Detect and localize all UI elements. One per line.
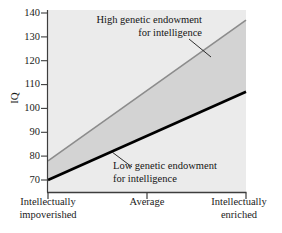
iq-genetic-endowment-chart: IQ 140 130 120 110 100 90 80 70 Intellec…: [0, 0, 282, 233]
high-annotation-line1: High genetic endowment: [55, 14, 202, 27]
low-annotation-line1: Low genetic endowment: [113, 160, 247, 173]
x-tick-0-line2: impoverished: [2, 209, 94, 222]
high-endowment-annotation: High genetic endowment for intelligence: [55, 14, 202, 39]
y-tick-140: 140: [14, 8, 40, 18]
low-endowment-annotation: Low genetic endowment for intelligence: [113, 160, 247, 185]
x-tick-intellectually-enriched: Intellectually enriched: [197, 196, 281, 221]
x-tick-0-line1: Intellectually: [2, 196, 94, 209]
y-tick-90: 90: [14, 127, 40, 137]
x-tick-2-line2: enriched: [197, 209, 281, 222]
y-tick-80: 80: [14, 151, 40, 161]
x-tick-1-line1: Average: [107, 196, 187, 209]
y-tick-70: 70: [14, 175, 40, 185]
y-tick-130: 130: [14, 32, 40, 42]
y-tick-110: 110: [14, 79, 40, 89]
x-axis-tick-labels: Intellectually impoverished Average Inte…: [0, 196, 282, 233]
x-tick-2-line1: Intellectually: [197, 196, 281, 209]
x-tick-intellectually-impoverished: Intellectually impoverished: [2, 196, 94, 221]
high-annotation-line2: for intelligence: [55, 27, 202, 40]
y-tick-120: 120: [14, 56, 40, 66]
y-axis-ticks: [41, 13, 48, 180]
y-tick-100: 100: [14, 103, 40, 113]
low-annotation-line2: for intelligence: [113, 173, 247, 186]
x-tick-average: Average: [107, 196, 187, 209]
